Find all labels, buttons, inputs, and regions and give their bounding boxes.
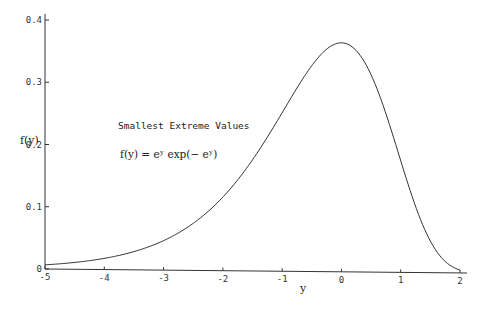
x-tick-label: -4 xyxy=(99,273,110,283)
x-tick-label: -5 xyxy=(40,272,51,282)
y-tick-label: 0.1 xyxy=(26,202,42,212)
x-axis-label: y xyxy=(299,282,307,295)
x-tick-label: -1 xyxy=(277,274,288,284)
y-axis-label: f(y) xyxy=(20,134,39,147)
chart: 00.10.20.30.4 -5-4-3-2-1012 f(y) y Small… xyxy=(0,0,491,312)
x-tick-label: 0 xyxy=(339,275,344,285)
x-tick-label: 2 xyxy=(457,276,462,286)
x-tick-label: -3 xyxy=(158,273,169,283)
x-tick-label: 1 xyxy=(398,275,403,285)
y-tick-label: 0.4 xyxy=(26,15,42,25)
formula-annotation: f(y) = eʸ exp(− eʸ) xyxy=(120,148,217,160)
y-tick-label: 0.3 xyxy=(26,77,42,87)
series-line-f-y xyxy=(45,43,460,270)
chart-title: Smallest Extreme Values xyxy=(118,120,250,131)
x-tick-label: -2 xyxy=(217,274,228,284)
axes xyxy=(45,14,467,273)
x-ticks: -5-4-3-2-1012 xyxy=(40,266,463,286)
